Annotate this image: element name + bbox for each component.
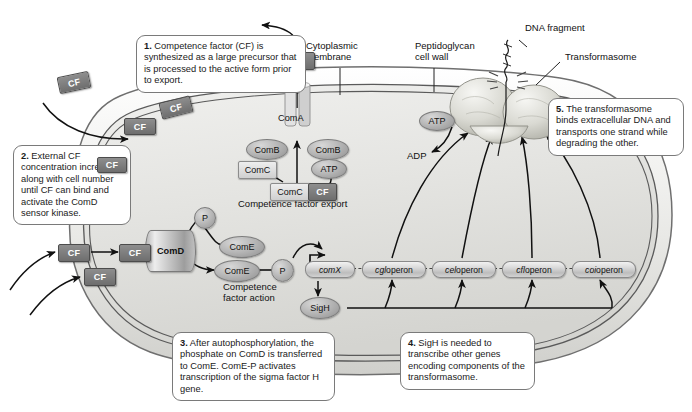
label-transformasome: Transformasome bbox=[565, 51, 636, 62]
phosphate-on-comd: P bbox=[194, 207, 216, 229]
operon-cgl-gene: cgl bbox=[375, 265, 386, 275]
label-adp: ADP bbox=[407, 150, 427, 161]
label-dna-fragment: DNA fragment bbox=[525, 22, 585, 33]
operon-cgl: cgl operon bbox=[362, 261, 426, 278]
callout-step-2-number: 2. bbox=[21, 151, 29, 161]
operon-cel-suffix: operon bbox=[456, 265, 483, 275]
label-cf-action-line2: factor action bbox=[223, 292, 277, 303]
operon-cfl: cfl operon bbox=[502, 261, 566, 278]
callout-step-3: 3. After autophosphorylation, the phosph… bbox=[172, 332, 335, 401]
comb-protein-right: ComB bbox=[307, 139, 349, 160]
arrow-cf-diffusion-lower2 bbox=[30, 277, 80, 315]
operon-coi-gene: coi bbox=[585, 265, 596, 275]
atp-transformasome: ATP bbox=[419, 111, 455, 131]
label-peptidoglycan-line1: Peptidoglycan bbox=[415, 40, 475, 51]
cf-molecule-binding-left: CF bbox=[58, 244, 90, 262]
phosphate-on-come: P bbox=[271, 259, 294, 282]
callout-step-1: 1. Competence factor (CF) is synthesized… bbox=[136, 35, 306, 93]
leader-dna-fragment bbox=[519, 40, 527, 47]
callout-step-1-text: Competence factor (CF) is synthesized as… bbox=[144, 41, 296, 85]
label-cytoplasmic-membrane-line1: Cytoplasmic bbox=[306, 40, 358, 51]
label-cf-action-line1: Competence bbox=[223, 281, 277, 292]
cf-molecule-in-callout-2: CF bbox=[97, 157, 127, 173]
callout-step-1-number: 1. bbox=[144, 41, 152, 51]
cf-molecule-bound-to-comd: CF bbox=[119, 244, 151, 262]
cf-molecule-free-lower-left: CF bbox=[84, 268, 116, 286]
comc-cf-complex-cf: CF bbox=[308, 183, 337, 201]
label-peptidoglycan-line2: cell wall bbox=[415, 51, 475, 62]
callout-step-4-text: SigH is needed to transcribe other genes… bbox=[408, 338, 525, 382]
callout-step-4-number: 4. bbox=[408, 338, 416, 348]
operon-cel-gene: cel bbox=[445, 265, 456, 275]
cf-molecule-exported-left: CF bbox=[124, 118, 156, 135]
callout-step-4: 4. SigH is needed to transcribe other ge… bbox=[400, 332, 535, 390]
operon-coi: coi operon bbox=[572, 261, 636, 278]
sigh-sigma-factor: SigH bbox=[300, 297, 340, 319]
operon-cfl-suffix: operon bbox=[525, 265, 552, 275]
atp-export: ATP bbox=[311, 159, 347, 179]
label-coma: ComA bbox=[278, 113, 304, 123]
diagram-canvas: 1. Competence factor (CF) is synthesized… bbox=[0, 0, 692, 412]
come-unphosphorylated: ComE bbox=[219, 236, 265, 258]
comd-sensor-kinase: ComD bbox=[145, 230, 196, 272]
come-phosphorylated: ComE bbox=[214, 260, 260, 282]
callout-step-3-number: 3. bbox=[180, 338, 188, 348]
operon-cgl-suffix: operon bbox=[386, 265, 413, 275]
operon-coi-suffix: operon bbox=[596, 265, 623, 275]
arrow-cf-diffusion-lower1 bbox=[10, 252, 55, 290]
comc-protein-free: ComC bbox=[238, 161, 277, 179]
callout-step-3-text: After autophosphorylation, the phosphate… bbox=[180, 338, 322, 394]
label-peptidoglycan-cell-wall: Peptidoglycan cell wall bbox=[415, 40, 475, 62]
operon-comx: comX bbox=[305, 261, 355, 278]
label-competence-factor-action: Competence factor action bbox=[223, 281, 277, 303]
comc-cf-complex-comc: ComC bbox=[270, 183, 310, 201]
callout-step-5: 5. The transformasome binds extracellula… bbox=[548, 98, 684, 156]
callout-step-5-number: 5. bbox=[556, 104, 564, 114]
comb-protein-left: ComB bbox=[246, 139, 288, 160]
operon-cel: cel operon bbox=[432, 261, 496, 278]
operon-cfl-gene: cfl bbox=[516, 265, 525, 275]
callout-step-5-text: The transformasome binds extracellular D… bbox=[556, 104, 671, 148]
operon-comx-gene: comX bbox=[319, 265, 341, 275]
